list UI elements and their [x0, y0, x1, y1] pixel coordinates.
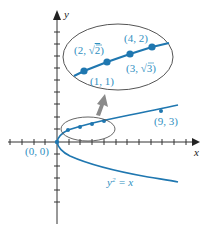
- label-4-2: (4, 2): [124, 32, 148, 45]
- equation-label: y2 = x: [106, 176, 133, 188]
- point-3-r3-dot: [90, 122, 94, 126]
- label-2-sqrt2: (2, √2): [74, 44, 104, 57]
- label-9-3: (9, 3): [154, 115, 178, 128]
- origin-dot: [55, 140, 59, 144]
- label-1-1: (1, 1): [90, 75, 114, 88]
- inset-point-1-1: [80, 67, 87, 74]
- magnify-arrow-icon: [96, 94, 108, 116]
- magnify-inset-ellipse: [63, 24, 173, 90]
- label-3-sqrt3: (3, √3): [126, 62, 156, 75]
- magnified-inset: (1, 1) (2, √2) (3, √3) (4, 2): [63, 24, 173, 90]
- point-1-1-dot: [66, 128, 70, 132]
- inset-point-4-2: [148, 43, 155, 50]
- x-axis-label: x: [193, 146, 199, 158]
- y-axis: y: [53, 8, 69, 224]
- inset-point-2-r2: [103, 58, 110, 65]
- y-axis-label: y: [63, 8, 69, 20]
- y-axis-arrow-icon: [53, 10, 61, 20]
- x-axis-arrow-icon: [192, 138, 200, 146]
- point-9-3-dot: [159, 109, 163, 113]
- parabola-diagram: x y: [0, 0, 209, 226]
- inset-point-3-r3: [126, 50, 133, 57]
- label-origin: (0, 0): [25, 145, 49, 158]
- point-2-r2-dot: [78, 125, 82, 129]
